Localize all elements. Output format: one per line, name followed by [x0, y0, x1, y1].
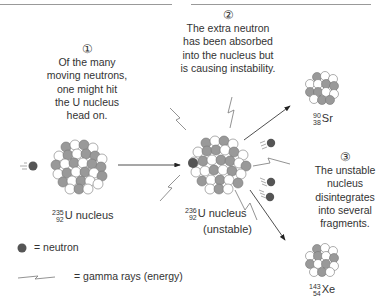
- u235-nucleus-icon: [51, 140, 107, 194]
- sr-label: 9038Sr: [313, 112, 333, 126]
- sr-nucleus-icon: [306, 72, 339, 105]
- fission-diagram: [0, 0, 382, 302]
- legend-neutron-text: = neutron: [34, 241, 79, 253]
- u236-label: 23692U nucleus: [185, 207, 247, 221]
- u235-label: 23592U nucleus: [52, 209, 114, 223]
- u236-note: (unstable): [203, 223, 252, 235]
- legend-neutron-icon: [18, 244, 27, 253]
- xe-nucleus-icon: [306, 244, 339, 277]
- arrow-to-sr: [244, 106, 290, 140]
- u236-nucleus-icon: [188, 136, 251, 194]
- legend-gamma-text: = gamma rays (energy): [74, 270, 183, 282]
- xe-label: 14354Xe: [309, 283, 335, 297]
- legend-gamma-icon: [18, 276, 55, 279]
- emitted-neutrons-icon: [259, 139, 275, 201]
- incoming-neutron-icon: [20, 162, 38, 171]
